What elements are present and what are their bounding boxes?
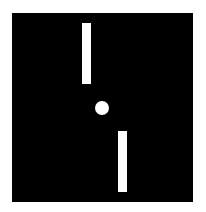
bottom-paddle[interactable] xyxy=(118,131,127,192)
ball xyxy=(95,101,109,115)
top-paddle[interactable] xyxy=(82,23,91,84)
